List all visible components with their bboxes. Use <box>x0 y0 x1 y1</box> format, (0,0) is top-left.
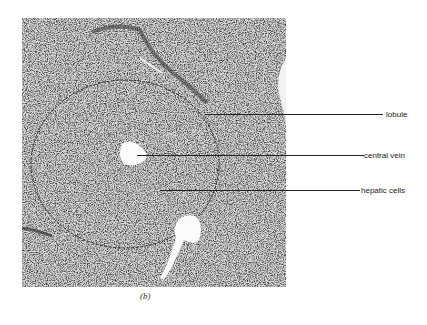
lobule-leader-line <box>205 114 383 115</box>
label-central-vein: central vein <box>364 151 405 161</box>
central-vein-leader-line <box>137 155 364 156</box>
figure-caption: (b) <box>140 291 151 301</box>
hepatic-cells-leader-line <box>160 190 360 191</box>
label-lobule: lobule <box>386 110 407 120</box>
label-hepatic-cells: hepatic cells <box>361 186 405 196</box>
liver-micrograph <box>22 18 286 287</box>
